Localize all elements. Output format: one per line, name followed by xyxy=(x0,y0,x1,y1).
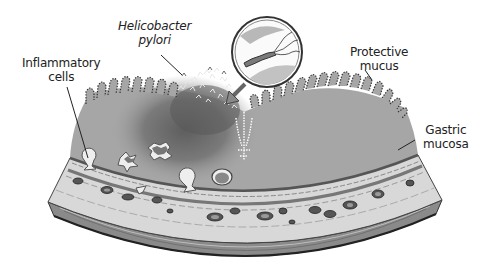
label-inflammatory-cells-line1: Inflammatory xyxy=(22,56,100,70)
label-protective-mucus-line2: mucus xyxy=(350,59,408,73)
label-h-pylori-line2: pylori xyxy=(118,33,191,47)
label-gastric-mucosa-line1: Gastric xyxy=(423,123,469,137)
label-h-pylori-line1: Helicobacter xyxy=(118,19,191,33)
label-protective-mucus: Protective mucus xyxy=(350,45,408,73)
label-protective-mucus-line1: Protective xyxy=(350,45,408,59)
magnified-inset xyxy=(232,17,302,87)
gastric-mucosa-illustration xyxy=(0,0,496,266)
label-gastric-mucosa-line2: mucosa xyxy=(423,137,469,151)
label-gastric-mucosa: Gastric mucosa xyxy=(423,123,469,151)
h-pylori-dark-flagella xyxy=(182,67,226,76)
label-inflammatory-cells-line2: cells xyxy=(22,70,100,84)
label-inflammatory-cells: Inflammatory cells xyxy=(22,56,100,84)
red-cell-in-mucosa xyxy=(212,169,232,185)
diagram-figure: Helicobacter pylori Inflammatory cells P… xyxy=(0,0,496,266)
leader-h-pylori xyxy=(161,55,182,75)
label-h-pylori: Helicobacter pylori xyxy=(118,19,191,47)
